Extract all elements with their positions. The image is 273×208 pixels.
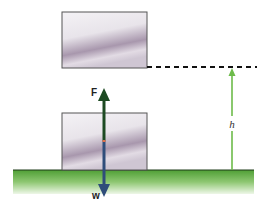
lift-work-diagram: h F w xyxy=(0,0,273,208)
height-arrow-head-icon xyxy=(229,68,236,76)
ground xyxy=(13,170,254,194)
height-label: h xyxy=(229,118,235,130)
weight-label: w xyxy=(91,190,100,201)
center-of-mass-marker xyxy=(103,140,106,142)
box-raised xyxy=(62,12,147,68)
force-arrow-head-icon xyxy=(98,88,110,101)
force-label: F xyxy=(91,87,97,98)
